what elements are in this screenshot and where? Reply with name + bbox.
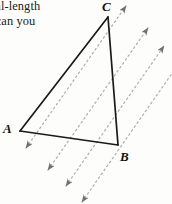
triangle-ABC xyxy=(20,17,118,145)
vector-4-arrowhead-up xyxy=(90,62,172,191)
caption-text: ual-length t can you xyxy=(0,0,99,28)
figure-canvas xyxy=(0,0,172,204)
vector-2-line xyxy=(48,28,148,170)
side-AC xyxy=(20,17,108,131)
dashed-vector-group xyxy=(26,6,172,202)
caption-line-1: ual-length xyxy=(0,0,99,14)
side-CB xyxy=(108,17,118,145)
vertex-label-a: A xyxy=(3,122,12,135)
vertex-label-b: B xyxy=(120,150,129,163)
side-AB xyxy=(20,131,118,145)
vector-4-line xyxy=(82,62,172,202)
vector-4 xyxy=(82,62,172,202)
vertex-label-c: C xyxy=(102,0,111,13)
geometry-figure: ual-length t can you C A B xyxy=(0,0,172,204)
vector-2 xyxy=(48,28,148,170)
caption-line-2: t can you xyxy=(0,14,99,29)
